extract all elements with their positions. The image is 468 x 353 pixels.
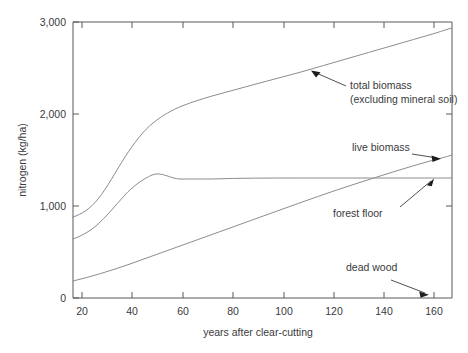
x-tick-labels-group: 20 40 60 80 100 120 140 160 (76, 305, 443, 317)
x-tick-label-140: 140 (375, 305, 393, 317)
x-tick-label-100: 100 (275, 305, 293, 317)
annotation-live-biomass: live biomass (352, 141, 441, 162)
x-tick-label-20: 20 (76, 305, 88, 317)
forest-floor-arrow-icon (427, 179, 434, 187)
annotation-forest-floor: forest floor (333, 179, 434, 220)
x-tick-label-40: 40 (126, 305, 138, 317)
live-biomass-arrow-icon (432, 156, 442, 162)
dead-wood-label: dead wood (346, 261, 398, 273)
x-axis-title: years after clear-cutting (203, 326, 313, 338)
x-tick-label-60: 60 (177, 305, 189, 317)
live-biomass-label: live biomass (352, 141, 410, 153)
y-tick-label-0: 0 (60, 292, 66, 304)
annotation-dead-wood: dead wood (346, 261, 429, 298)
y-tick-label-3000: 3,000 (40, 16, 66, 28)
forest-floor-label: forest floor (333, 207, 383, 219)
chart-page: 0 1,000 2,000 3,000 (0, 0, 468, 353)
x-tick-label-80: 80 (227, 305, 239, 317)
annotation-total-biomass: total biomass (excluding mineral soil) (311, 71, 457, 106)
x-ticks-group (82, 292, 434, 298)
total-biomass-label-line1: total biomass (350, 79, 412, 91)
dead-wood-leader-line (391, 280, 425, 293)
y-ticks-group (73, 22, 79, 298)
series-line-forest-floor (73, 174, 452, 239)
y-ticks-right-group (446, 114, 452, 206)
series-line-total-biomass (73, 28, 452, 217)
y-tick-label-2000: 2,000 (40, 108, 66, 120)
axes-group (73, 22, 452, 298)
x-ticks-top-group (82, 22, 434, 28)
x-tick-label-160: 160 (425, 305, 443, 317)
x-tick-label-120: 120 (325, 305, 343, 317)
forest-floor-leader-line (400, 181, 431, 207)
y-axis-title: nitrogen (kg/ha) (16, 123, 28, 197)
y-tick-label-1000: 1,000 (40, 200, 66, 212)
nitrogen-accumulation-line-chart: 0 1,000 2,000 3,000 (0, 0, 468, 353)
total-biomass-label-line2: (excluding mineral soil) (350, 93, 457, 105)
y-tick-labels-group: 0 1,000 2,000 3,000 (40, 16, 66, 304)
